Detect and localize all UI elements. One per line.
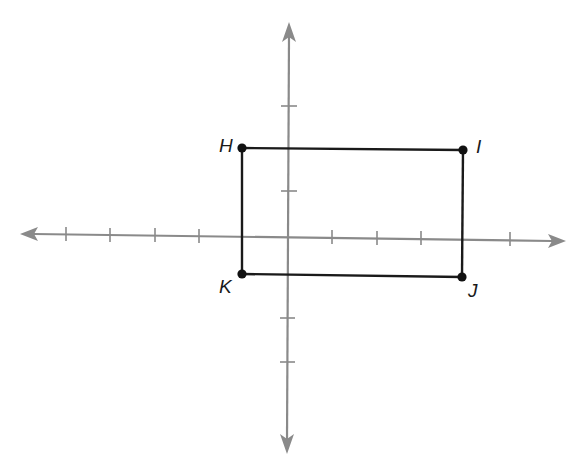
vertex-label-i: I: [476, 137, 481, 156]
y-axis: [287, 36, 289, 440]
coordinate-plane-diagram: H I J K: [0, 0, 576, 470]
vertex-k-point: [237, 269, 246, 278]
edge-jk: [242, 274, 462, 277]
vertex-label-k: K: [219, 277, 232, 296]
x-axis: [34, 234, 552, 241]
vertex-label-h: H: [219, 136, 233, 155]
edge-ij: [462, 150, 463, 277]
vertex-j-point: [457, 272, 466, 281]
edge-hi: [242, 148, 463, 150]
rectangle-hijk: [237, 143, 467, 281]
vertex-i-point: [458, 145, 467, 154]
diagram-canvas: [0, 0, 576, 470]
vertex-h-point: [237, 143, 246, 152]
vertex-label-j: J: [468, 281, 478, 300]
